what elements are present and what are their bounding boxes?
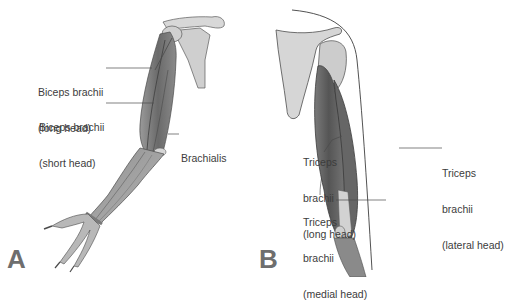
panel-a-anterior-arm: Biceps brachii (long head) Biceps brachi… xyxy=(0,0,254,277)
label-line: Triceps xyxy=(442,167,504,179)
label-triceps-lateral-head: Triceps brachii (lateral head) xyxy=(442,143,504,275)
label-biceps-short-head: Biceps brachii (short head) xyxy=(39,97,104,193)
label-line: Biceps brachii xyxy=(39,121,104,133)
label-line: Triceps xyxy=(303,156,356,168)
label-line: Brachialis xyxy=(181,152,227,164)
label-triceps-medial-head: Triceps brachii (medial head) xyxy=(303,192,367,304)
label-brachialis: Brachialis xyxy=(181,128,227,188)
label-line: (lateral head) xyxy=(442,239,504,251)
panel-letter-a: A xyxy=(7,246,26,272)
label-line: Triceps xyxy=(303,216,367,228)
panel-letter-b: B xyxy=(259,246,278,272)
label-line: (short head) xyxy=(39,157,104,169)
panel-b-posterior-arm: Triceps brachii (long head) Triceps brac… xyxy=(254,0,508,277)
label-line: brachii xyxy=(442,203,504,215)
label-line: brachii xyxy=(303,252,367,264)
label-line: (medial head) xyxy=(303,288,367,300)
